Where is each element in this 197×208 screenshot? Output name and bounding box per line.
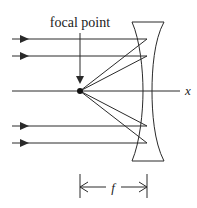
focal-length-label: f (111, 180, 117, 195)
ray-arrow-icon (20, 122, 29, 130)
ray-4 (12, 139, 147, 147)
ray-arrow-icon (20, 35, 29, 43)
diverging-lens-diagram: focal point x (0, 0, 197, 208)
focal-point-label: focal point (50, 15, 110, 30)
focal-point-dot (77, 88, 83, 94)
axis-label: x (184, 83, 191, 98)
focal-length-dimension: f (80, 174, 147, 198)
ray-arrow-icon (20, 52, 29, 60)
ray-3 (12, 122, 147, 130)
focal-point-pointer-arrow (76, 33, 84, 84)
ray-arrow-icon (20, 139, 29, 147)
